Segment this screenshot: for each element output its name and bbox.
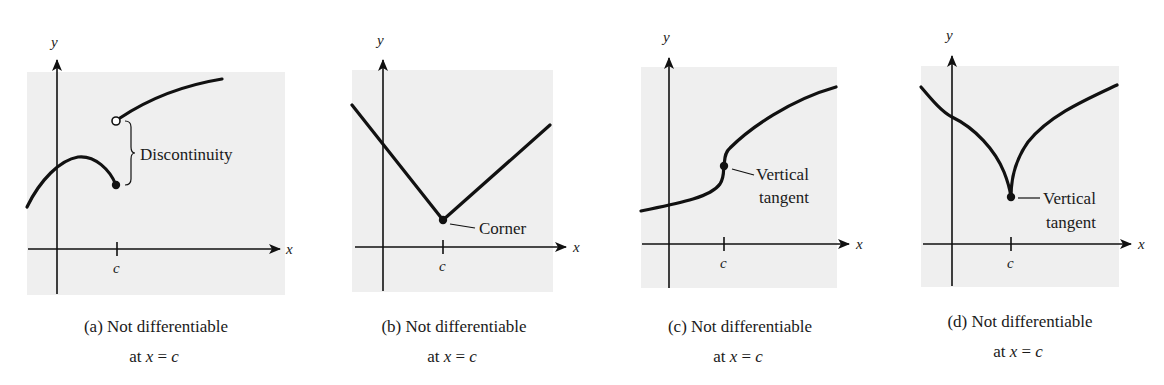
caption-line1: (c) Not differentiable (668, 317, 812, 336)
x-axis-label: x (285, 241, 293, 257)
y-axis-label: y (49, 34, 58, 50)
filled-endpoint-dot (112, 181, 120, 189)
vertical-tangent-dot (720, 162, 728, 170)
caption-line2: at x = c (713, 347, 763, 366)
plot-background (27, 72, 285, 295)
annotation-tangent: tangent (1046, 213, 1096, 232)
annotation-vertical: Vertical (1043, 189, 1096, 208)
x-axis-label: x (572, 239, 580, 255)
panel-b: x y c Corner (b) Not differentiable at x… (352, 32, 580, 366)
caption-line2: at x = c (993, 342, 1043, 361)
tick-label-c: c (720, 255, 727, 271)
caption-line1: (d) Not differentiable (947, 312, 1092, 331)
annotation-vertical: Vertical (756, 165, 809, 184)
caption-line2: at x = c (129, 347, 179, 366)
cusp-dot (1007, 193, 1015, 201)
tick-label-c: c (439, 258, 446, 274)
open-endpoint-circle (112, 117, 120, 125)
panel-d: x y c Vertical tangent (d) Not different… (921, 27, 1145, 361)
tick-label-c: c (1007, 255, 1014, 271)
annotation-discontinuity: Discontinuity (140, 145, 233, 164)
x-axis-label: x (855, 236, 863, 252)
tick-label-c: c (113, 260, 120, 276)
y-axis-label: y (661, 29, 670, 45)
panel-a: x y c Discontinuity (a) Not differentiab… (27, 34, 293, 366)
caption-line2: at x = c (427, 347, 477, 366)
x-axis-label: x (1137, 236, 1145, 252)
y-axis-label: y (944, 27, 953, 43)
y-axis-label: y (375, 32, 384, 48)
panel-c: x y c Vertical tangent (c) Not different… (641, 29, 863, 366)
caption-line1: (b) Not differentiable (381, 317, 526, 336)
figure-canvas: x y c Discontinuity (a) Not differentiab… (0, 0, 1164, 385)
annotation-corner: Corner (479, 219, 527, 238)
corner-dot (439, 216, 447, 224)
annotation-tangent: tangent (759, 188, 809, 207)
caption-line1: (a) Not differentiable (84, 317, 228, 336)
plot-background (352, 70, 553, 292)
